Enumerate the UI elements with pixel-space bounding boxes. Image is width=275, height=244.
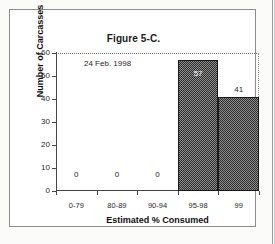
y-tick-30 [52,122,56,123]
y-tick-label-30: 30 [28,117,50,126]
plot-area: 0102030405060 0005741 0-7980-8990-9495-9… [56,53,259,191]
y-axis-line [56,52,57,192]
x-tick-label-95-98: 95-98 [189,201,208,210]
x-tick-1 [97,191,98,195]
bar-label-99: 41 [234,85,243,94]
y-tick-50 [52,76,56,77]
page-edge-artifact [272,0,273,244]
figure-root: Figure 5-C. Number of Carcasses Estimate… [0,0,275,244]
x-tick-5 [259,191,260,195]
x-tick-2 [137,191,138,195]
y-tick-20 [52,145,56,146]
bar-label-80-89: 0 [115,170,119,179]
y-tick-label-10: 10 [28,163,50,172]
y-tick-60 [52,53,56,54]
x-tick-label-0-79: 0-79 [69,201,84,210]
x-tick-3 [178,191,179,195]
bar-label-0-79: 0 [74,170,78,179]
chart-title: Figure 5-C. [10,33,257,44]
bar-95-98[interactable] [178,60,219,191]
y-tick-10 [52,168,56,169]
x-tick-label-90-94: 90-94 [148,201,167,210]
y-tick-label-0: 0 [28,186,50,195]
x-tick-label-80-89: 80-89 [107,201,126,210]
y-tick-40 [52,99,56,100]
y-tick-label-40: 40 [28,94,50,103]
bar-99[interactable] [218,97,259,191]
x-tick-0 [56,191,57,195]
figure-frame: Figure 5-C. Number of Carcasses Estimate… [9,9,256,227]
page-edge-artifact-secondary [274,0,275,244]
y-tick-label-20: 20 [28,140,50,149]
x-axis-title: Estimated % Consumed [56,215,259,225]
bar-label-95-98: 57 [194,69,203,78]
x-tick-4 [218,191,219,195]
y-tick-label-50: 50 [28,71,50,80]
plot-top-border [56,53,259,54]
x-tick-label-99: 99 [235,201,243,210]
bar-label-90-94: 0 [155,170,159,179]
y-tick-label-60: 60 [28,48,50,57]
